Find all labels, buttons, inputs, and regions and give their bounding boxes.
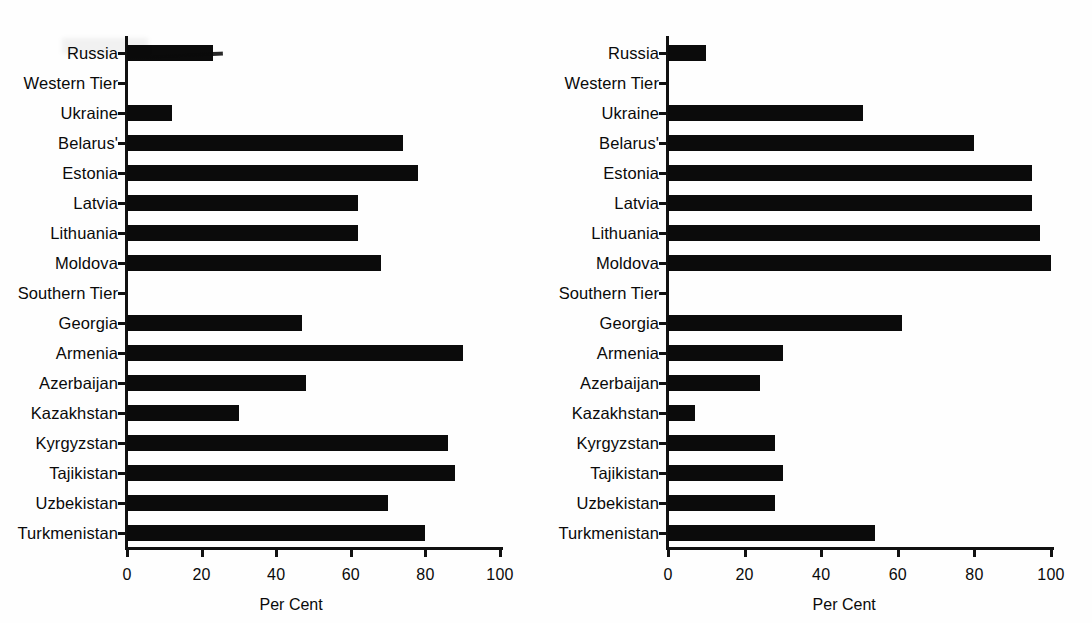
category-label-belarus: Belarus' [58,134,118,153]
y-axis-tick [118,232,126,235]
bar-row: Russia [127,38,500,68]
bar [668,435,775,451]
y-axis-tick [659,322,667,325]
bar-row: Uzbekistan [127,488,500,518]
bar [127,255,381,271]
x-axis-tick-label: 20 [735,566,753,584]
bar-row: Southern Tier [668,278,1051,308]
bar-row: Western Tier [668,68,1051,98]
category-label-lithuania: Lithuania [50,224,118,243]
bar-row: Georgia [668,308,1051,338]
bar-row: Moldova [127,248,500,278]
category-label-ukraine: Ukraine [60,104,118,123]
x-axis-tick [973,549,976,557]
bar-row: Latvia [127,188,500,218]
bar-row: Armenia [127,338,500,368]
y-axis-tick [659,442,667,445]
plot-area-left: Per Cent RussiaWestern TierUkraineBelaru… [127,38,500,548]
category-label-uzbekistan: Uzbekistan [576,494,659,513]
bar [668,135,974,151]
x-axis-tick-label: 100 [486,566,513,584]
x-axis-tick [201,549,204,557]
bar [668,225,1040,241]
x-axis-tick-label: 0 [122,566,131,584]
x-axis-title-right: Per Cent [813,596,876,614]
bar-row: Turkmenistan [127,518,500,548]
bar-row: Georgia [127,308,500,338]
bar-row: Kazakhstan [668,398,1051,428]
category-label-moldova: Moldova [596,254,659,273]
category-label-uzbekistan: Uzbekistan [35,494,118,513]
y-axis-tick [659,502,667,505]
bar-row: Moldova [668,248,1051,278]
bar-row: Belarus' [127,128,500,158]
x-axis-tick [897,549,900,557]
bar [127,525,425,541]
y-axis-tick [659,472,667,475]
x-axis-tick [350,549,353,557]
bar-row: Latvia [668,188,1051,218]
bar [668,345,783,361]
category-label-latvia: Latvia [73,194,118,213]
y-axis-tick [118,442,126,445]
bar-row: Kyrgyzstan [127,428,500,458]
x-axis-tick [424,549,427,557]
y-axis-tick [118,172,126,175]
y-axis-tick [118,412,126,415]
bar-row: Azerbaijan [127,368,500,398]
category-label-belarus: Belarus' [599,134,659,153]
bar [668,495,775,511]
category-label-southern-tier: Southern Tier [559,284,659,303]
bar [668,165,1032,181]
category-label-lithuania: Lithuania [591,224,659,243]
bar [127,435,448,451]
x-axis-tick-label: 100 [1037,566,1064,584]
category-label-estonia: Estonia [62,164,118,183]
y-axis-tick [118,352,126,355]
x-axis-tick-label: 60 [889,566,907,584]
y-axis-tick [118,292,126,295]
scan-artifact-smudge-left [62,38,148,54]
y-axis-tick [118,502,126,505]
category-label-azerbaijan: Azerbaijan [39,374,118,393]
y-axis-tick [118,262,126,265]
y-axis-tick [659,412,667,415]
category-label-armenia: Armenia [56,344,118,363]
x-axis-tick [820,549,823,557]
y-axis-tick [659,202,667,205]
category-label-tajikistan: Tajikistan [590,464,659,483]
x-axis-tick-label: 0 [663,566,672,584]
bar [127,495,388,511]
category-label-latvia: Latvia [614,194,659,213]
bar [668,105,863,121]
bar-row: Ukraine [668,98,1051,128]
category-label-turkmenistan: Turkmenistan [558,524,659,543]
bar-row: Ukraine [127,98,500,128]
bar-row: Lithuania [668,218,1051,248]
chart-panel-left: Per Cent RussiaWestern TierUkraineBelaru… [0,0,546,623]
x-axis-tick-label: 60 [342,566,360,584]
y-axis-tick [659,352,667,355]
y-axis-tick [659,82,667,85]
bar-row: Azerbaijan [668,368,1051,398]
y-axis-tick [659,292,667,295]
x-axis-title-left: Per Cent [260,596,323,614]
category-label-kyrgyzstan: Kyrgyzstan [576,434,659,453]
bar [127,195,358,211]
bar [127,465,455,481]
x-axis-tick [126,549,129,557]
x-axis-tick [744,549,747,557]
x-axis-tick-label: 80 [416,566,434,584]
y-axis-tick [118,202,126,205]
bar [127,225,358,241]
category-label-georgia: Georgia [59,314,118,333]
category-label-kazakhstan: Kazakhstan [31,404,118,423]
bar [668,465,783,481]
chart-panel-right: Per Cent RussiaWestern TierUkraineBelaru… [546,0,1092,623]
bar [127,135,403,151]
y-axis-tick [659,142,667,145]
bar [668,375,760,391]
bar-row: Turkmenistan [668,518,1051,548]
category-label-western-tier: Western Tier [565,74,659,93]
category-label-moldova: Moldova [55,254,118,273]
